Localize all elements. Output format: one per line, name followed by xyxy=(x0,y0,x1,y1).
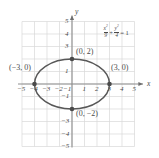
x-tick-label--4: −4 xyxy=(30,86,38,93)
x-tick-label-3: 3 xyxy=(108,86,112,93)
y-tick-label-1: 1 xyxy=(65,68,69,75)
equation-term-1: x2 9 xyxy=(104,26,108,39)
y-axis-arrow xyxy=(70,16,74,21)
annotation-top-vertex: (0, 2) xyxy=(76,48,93,56)
eq-term2-exponent: 2 xyxy=(117,24,119,28)
y-tick-label-3: 3 xyxy=(65,43,69,50)
eq-term1-exponent: 2 xyxy=(106,24,108,28)
x-axis-arrow xyxy=(138,82,143,86)
eq-term2-denominator: 4 xyxy=(114,32,118,39)
vertex-point-top xyxy=(70,57,75,62)
y-tick-label--1: −1 xyxy=(61,93,69,100)
coordinate-plane-svg xyxy=(0,0,159,158)
eq-term1-denominator: 9 xyxy=(104,32,108,39)
ellipse-graph-figure: y x −5 −4 −3 −2 −1 1 2 3 4 5 5 4 3 1 −1 … xyxy=(0,0,159,158)
equation-term-2: y2 4 xyxy=(114,26,118,39)
y-tick-label--5: −5 xyxy=(61,143,69,150)
y-tick-label--4: −4 xyxy=(61,131,69,138)
y-tick-label--3: −3 xyxy=(61,118,69,125)
x-tick-label-5: 5 xyxy=(133,86,137,93)
y-axis xyxy=(70,16,74,148)
y-axis-label: y xyxy=(75,8,78,16)
x-tick-label--3: −3 xyxy=(42,86,50,93)
ellipse-equation-label: x2 9 + y2 4 = 1 xyxy=(103,26,130,39)
y-tick-label-4: 4 xyxy=(65,31,69,38)
annotation-bottom-vertex: (0, −2) xyxy=(76,110,98,118)
vertex-point-bottom xyxy=(70,107,75,112)
annotation-right-vertex: (3, 0) xyxy=(111,64,128,72)
x-axis-label: x xyxy=(147,80,150,88)
x-tick-label-2: 2 xyxy=(95,86,99,93)
eq-plus-sign: + xyxy=(109,29,113,36)
eq-equals-one: = 1 xyxy=(120,29,129,36)
x-tick-label-4: 4 xyxy=(120,86,124,93)
y-tick-label-5: 5 xyxy=(65,18,69,25)
annotation-left-vertex: (−3, 0) xyxy=(9,64,31,72)
x-tick-label--5: −5 xyxy=(17,86,25,93)
x-tick-label-1: 1 xyxy=(83,86,87,93)
